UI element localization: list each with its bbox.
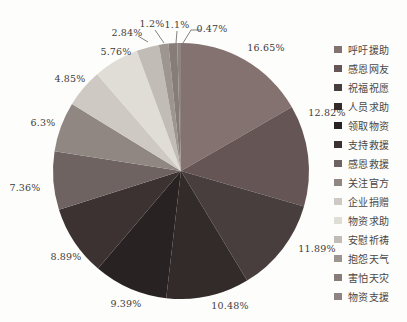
legend-item-label: 感恩救援: [348, 156, 390, 171]
label-leader-line: [155, 30, 164, 43]
legend-item-label: 感恩网友: [348, 61, 390, 76]
legend-item: 害怕天灾: [334, 268, 390, 287]
legend-item-label: 企业捐赠: [348, 194, 390, 209]
legend-item: 呼吁援助: [334, 40, 390, 59]
legend-swatch: [334, 179, 342, 187]
legend-item: 抱怨天气: [334, 249, 390, 268]
legend-item-label: 支持救援: [348, 137, 390, 152]
legend-item-label: 人员求助: [348, 99, 390, 114]
slice-percent-label: 2.84%: [111, 27, 142, 38]
slice-percent-label: 7.36%: [9, 182, 40, 193]
slice-percent-label: 1.2%: [140, 18, 165, 29]
legend-item: 感恩网友: [334, 59, 390, 78]
slice-percent-label: 6.3%: [31, 117, 56, 128]
legend-item: 祝福祝愿: [334, 78, 390, 97]
legend-swatch: [334, 293, 342, 301]
legend: 呼吁援助感恩网友祝福祝愿人员求助领取物资支持救援感恩救援关注官方企业捐赠物资求助…: [334, 40, 390, 306]
slice-percent-label: 8.89%: [50, 251, 81, 262]
label-leader-lines: [138, 30, 201, 43]
slice-percent-label: 11.89%: [298, 243, 335, 254]
legend-item: 物资求助: [334, 211, 390, 230]
legend-item-label: 领取物资: [348, 118, 390, 133]
legend-item: 安慰祈祷: [334, 230, 390, 249]
legend-item: 感恩救援: [334, 154, 390, 173]
legend-swatch: [334, 46, 342, 54]
legend-item: 领取物资: [334, 116, 390, 135]
legend-item: 企业捐赠: [334, 192, 390, 211]
legend-swatch: [334, 198, 342, 206]
pie-slices: [53, 43, 309, 299]
legend-swatch: [334, 84, 342, 92]
legend-item-label: 害怕天灾: [348, 270, 390, 285]
legend-swatch: [334, 236, 342, 244]
legend-swatch: [334, 217, 342, 225]
legend-item-label: 关注官方: [348, 175, 390, 190]
legend-item-label: 物资支援: [348, 289, 390, 304]
slice-percent-label: 0.47%: [196, 23, 227, 34]
legend-swatch: [334, 274, 342, 282]
slice-percent-label: 5.76%: [100, 46, 131, 57]
legend-swatch: [334, 65, 342, 73]
slice-percent-label: 1.1%: [165, 19, 190, 30]
legend-item-label: 呼吁援助: [348, 42, 390, 57]
legend-item: 支持救援: [334, 135, 390, 154]
pie-chart-figure: 16.65%12.82%11.89%10.48%9.39%8.89%7.36%6…: [0, 0, 407, 322]
legend-swatch: [334, 141, 342, 149]
slice-percent-label: 10.48%: [211, 300, 248, 311]
legend-item: 物资支援: [334, 287, 390, 306]
slice-percent-label: 4.85%: [54, 73, 85, 84]
legend-swatch: [334, 122, 342, 130]
legend-item-label: 抱怨天气: [348, 251, 390, 266]
legend-item-label: 物资求助: [348, 213, 390, 228]
legend-swatch: [334, 160, 342, 168]
legend-item-label: 安慰祈祷: [348, 232, 390, 247]
legend-item: 人员求助: [334, 97, 390, 116]
slice-percent-label: 9.39%: [110, 298, 141, 309]
label-leader-line: [176, 31, 177, 43]
legend-item: 关注官方: [334, 173, 390, 192]
legend-swatch: [334, 255, 342, 263]
legend-swatch: [334, 103, 342, 111]
slice-percent-label: 16.65%: [247, 42, 284, 53]
legend-item-label: 祝福祝愿: [348, 80, 390, 95]
